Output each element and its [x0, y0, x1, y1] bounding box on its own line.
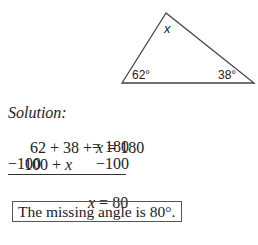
- answer-box: The missing angle is 80°.: [12, 201, 182, 222]
- subtraction-rule: [8, 174, 126, 175]
- eq2-var: x: [65, 156, 72, 173]
- equation-line-3-right: −100: [96, 155, 129, 173]
- angle-x-label: x: [164, 21, 171, 36]
- triangle-figure: [0, 0, 258, 100]
- solution-heading: Solution:: [8, 104, 67, 122]
- equation-line-2-right: = 180: [92, 138, 129, 156]
- equation-line-3-left: −100: [8, 155, 41, 173]
- angle-62-label: 62°: [132, 68, 150, 82]
- angle-38-label: 38°: [218, 68, 236, 82]
